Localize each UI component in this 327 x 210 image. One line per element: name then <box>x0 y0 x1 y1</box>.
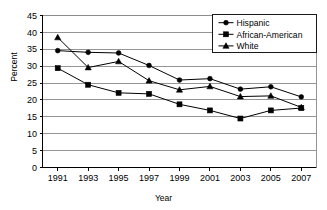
x-tick-label: 2007 <box>291 173 311 183</box>
circle-marker <box>224 20 229 25</box>
data-point <box>86 50 91 55</box>
y-tick-label: 15 <box>27 112 37 122</box>
x-tick-label: 2001 <box>200 173 220 183</box>
chart-legend: HispanicAfrican-AmericanWhite <box>213 15 317 53</box>
data-point <box>268 84 273 89</box>
x-tick-label: 2003 <box>230 173 250 183</box>
x-tick-label: 1997 <box>139 173 159 183</box>
data-point <box>116 51 121 56</box>
square-marker <box>224 32 229 37</box>
data-point <box>207 108 212 113</box>
legend-label: White <box>237 41 259 51</box>
data-point <box>238 116 243 121</box>
data-point <box>55 48 60 53</box>
line-chart-canvas: 051015202530354045 199119931995199719992… <box>0 0 327 210</box>
y-tick-label: 5 <box>32 146 37 156</box>
y-tick-label: 10 <box>27 129 37 139</box>
y-tick-label: 45 <box>27 11 37 21</box>
y-tick-label: 40 <box>27 28 37 38</box>
data-point <box>55 66 60 71</box>
x-tick-label: 1995 <box>109 173 129 183</box>
data-point <box>86 82 91 87</box>
y-tick-label: 35 <box>27 44 37 54</box>
y-tick-label: 20 <box>27 95 37 105</box>
data-point <box>238 87 243 92</box>
legend-label: African-American <box>237 30 303 40</box>
y-tick-label: 0 <box>32 163 37 173</box>
x-tick-label: 1999 <box>169 173 189 183</box>
x-axis-title: Year <box>0 193 327 203</box>
x-tick-labels: 199119931995199719992001200320052007 <box>48 173 312 183</box>
legend-label: Hispanic <box>237 18 271 28</box>
data-point <box>268 108 273 113</box>
data-point <box>177 102 182 107</box>
y-tick-label: 30 <box>27 61 37 71</box>
chart-figure: 051015202530354045 199119931995199719992… <box>0 0 327 210</box>
data-point <box>147 63 152 68</box>
data-point <box>147 91 152 96</box>
x-tick-label: 1993 <box>78 173 98 183</box>
data-point <box>208 76 213 81</box>
data-point <box>116 90 121 95</box>
data-point <box>299 95 304 100</box>
x-tick-label: 1991 <box>48 173 68 183</box>
y-tick-label: 25 <box>27 78 37 88</box>
y-axis-title: Percent <box>9 37 19 97</box>
data-point <box>177 78 182 83</box>
x-tick-label: 2005 <box>261 173 281 183</box>
